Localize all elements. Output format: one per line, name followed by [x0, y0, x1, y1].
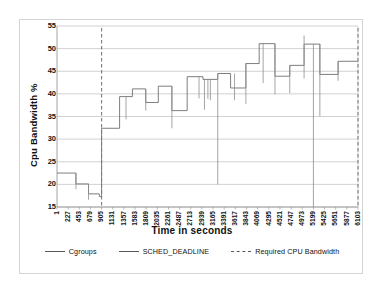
legend-item[interactable]: Cgroups [45, 247, 97, 256]
series-line-step [57, 44, 358, 197]
legend-swatch-dashed [231, 251, 251, 252]
chart-svg [20, 20, 364, 275]
x-axis-title: Time in seconds [20, 225, 364, 236]
chart-legend: CgroupsSCHED_DEADLINERequired CPU Bandwi… [20, 247, 364, 256]
legend-swatch-solid [45, 251, 65, 252]
legend-label: Required CPU Bandwidth [255, 247, 339, 256]
legend-label: SCHED_DEADLINE [143, 247, 210, 256]
legend-label: Cgroups [69, 247, 97, 256]
legend-swatch-solid [119, 251, 139, 252]
legend-item[interactable]: Required CPU Bandwidth [231, 247, 339, 256]
legend-item[interactable]: SCHED_DEADLINE [119, 247, 210, 256]
chart-plot-area: Cpu Bandwidth % 152025303540455055 12274… [20, 20, 364, 275]
chart-card: Cpu Bandwidth % 152025303540455055 12274… [19, 19, 363, 274]
